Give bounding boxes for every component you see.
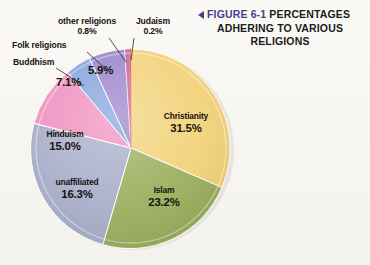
pie-sheen-overlay bbox=[32, 49, 230, 247]
figure-caption-line-1: FIGURE 6-1 PERCENTAGES bbox=[196, 8, 364, 22]
figure-caption-line-2: ADHERING TO VARIOUS bbox=[196, 22, 364, 36]
figure-container: Christianity 31.5% Islam 23.2% unaffilia… bbox=[0, 0, 370, 265]
left-triangle-icon bbox=[198, 11, 204, 19]
figure-caption: FIGURE 6-1 PERCENTAGES ADHERING TO VARIO… bbox=[196, 8, 364, 49]
figure-caption-rest: PERCENTAGES bbox=[269, 8, 350, 20]
figure-caption-line-3: RELIGIONS bbox=[196, 35, 364, 49]
figure-number: FIGURE 6-1 bbox=[207, 8, 266, 20]
